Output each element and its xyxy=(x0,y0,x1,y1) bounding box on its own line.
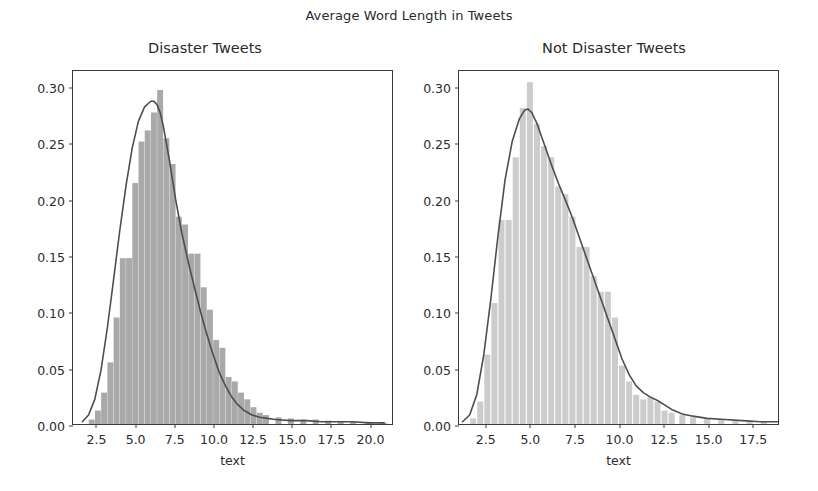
x-tick-mark xyxy=(485,424,486,428)
x-tick-mark xyxy=(96,424,97,428)
x-tick-label: 5.0 xyxy=(126,432,146,447)
histogram-bar xyxy=(188,254,194,424)
x-tick-mark xyxy=(174,424,175,428)
x-tick-mark xyxy=(530,424,531,428)
histogram-bar xyxy=(89,420,95,424)
plot-area-right xyxy=(459,71,778,424)
x-tick-label: 17.5 xyxy=(317,432,345,447)
histogram-bar xyxy=(120,258,126,424)
histogram-bar xyxy=(576,247,582,424)
histogram-bar xyxy=(151,112,157,424)
x-tick-label: 7.5 xyxy=(165,432,185,447)
histogram-bar xyxy=(263,415,269,424)
histogram-bar xyxy=(513,157,519,424)
x-tick-label: 10.0 xyxy=(606,432,634,447)
histogram-bar xyxy=(101,393,107,424)
histogram-bar xyxy=(226,377,232,424)
histogram-bar xyxy=(619,366,625,424)
histogram-bar xyxy=(626,381,632,424)
histogram-bar xyxy=(195,254,201,424)
y-tick-mark xyxy=(69,87,73,88)
x-tick-mark xyxy=(370,424,371,428)
histogram-bar xyxy=(679,415,685,424)
y-tick-label: 0.30 xyxy=(423,80,451,95)
x-tick-mark xyxy=(574,424,575,428)
histogram-bar xyxy=(548,157,554,424)
histogram-bar xyxy=(170,164,176,424)
panel-title-left: Disaster Tweets xyxy=(0,40,410,56)
y-tick-label: 0.15 xyxy=(37,249,65,264)
histogram-bar xyxy=(562,194,568,424)
panel-title-right: Not Disaster Tweets xyxy=(410,40,818,56)
x-tick-mark xyxy=(708,424,709,428)
y-tick-label: 0.10 xyxy=(37,306,65,321)
histogram-bar xyxy=(484,355,490,424)
histogram-bar xyxy=(591,276,597,424)
x-tick-label: 15.0 xyxy=(278,432,306,447)
y-tick-label: 0.25 xyxy=(37,137,65,152)
x-tick-mark xyxy=(331,424,332,428)
xlabel-left: text xyxy=(72,453,393,468)
y-tick-label: 0.05 xyxy=(423,362,451,377)
axes-not-disaster-tweets: 0.000.050.100.150.200.250.302.55.07.510.… xyxy=(458,70,779,425)
y-tick-mark xyxy=(69,144,73,145)
y-tick-mark xyxy=(455,256,459,257)
histogram-bar xyxy=(176,217,182,424)
histogram-bar xyxy=(598,292,604,424)
histogram-bar xyxy=(477,402,483,424)
y-tick-mark xyxy=(455,87,459,88)
histogram-bar xyxy=(520,108,526,424)
histogram-bar xyxy=(633,395,639,424)
histogram-bar xyxy=(506,220,512,424)
histogram-bar xyxy=(527,82,533,424)
histogram-bar xyxy=(257,413,263,424)
x-tick-label: 20.0 xyxy=(357,432,385,447)
y-tick-label: 0.05 xyxy=(37,362,65,377)
y-tick-mark xyxy=(69,200,73,201)
x-tick-label: 17.5 xyxy=(739,432,767,447)
histogram-bar xyxy=(470,418,476,424)
x-tick-mark xyxy=(213,424,214,428)
histogram-bar xyxy=(107,362,113,424)
x-tick-mark xyxy=(135,424,136,428)
histogram-bar xyxy=(555,186,561,424)
y-tick-label: 0.00 xyxy=(423,419,451,434)
y-tick-mark xyxy=(455,369,459,370)
axes-disaster-tweets: 0.000.050.100.150.200.250.302.55.07.510.… xyxy=(72,70,393,425)
x-tick-mark xyxy=(619,424,620,428)
x-tick-mark xyxy=(753,424,754,428)
histogram-bar xyxy=(640,399,646,424)
panel-not-disaster-tweets: Not Disaster Tweets 0.000.050.100.150.20… xyxy=(410,0,818,491)
y-tick-mark xyxy=(69,369,73,370)
x-tick-label: 5.0 xyxy=(520,432,540,447)
panel-disaster-tweets: Disaster Tweets 0.000.050.100.150.200.25… xyxy=(0,0,410,491)
histogram-bar xyxy=(654,402,660,424)
histogram-bar xyxy=(163,138,169,424)
plot-area-left xyxy=(73,71,392,424)
histogram-bar xyxy=(732,421,738,424)
x-tick-label: 2.5 xyxy=(87,432,107,447)
histogram-bar xyxy=(219,348,225,424)
x-tick-label: 2.5 xyxy=(476,432,496,447)
histogram-bar xyxy=(157,90,163,424)
histogram-bar xyxy=(139,142,145,424)
histogram-bar xyxy=(114,318,120,424)
histogram-bar xyxy=(647,397,653,424)
histogram-bar xyxy=(584,247,590,424)
y-tick-label: 0.10 xyxy=(423,306,451,321)
x-tick-mark xyxy=(292,424,293,428)
histogram-bar xyxy=(95,411,101,424)
histogram-bar xyxy=(534,124,540,424)
histogram-bar xyxy=(132,183,138,424)
histogram-bar xyxy=(201,287,207,424)
histogram-bar xyxy=(213,340,219,424)
histogram-bar xyxy=(662,411,668,424)
histogram-bar xyxy=(499,220,505,424)
y-tick-label: 0.00 xyxy=(37,419,65,434)
y-tick-label: 0.25 xyxy=(423,137,451,152)
histogram-bar xyxy=(491,303,497,424)
y-tick-mark xyxy=(455,313,459,314)
y-tick-mark xyxy=(69,313,73,314)
histogram-bar xyxy=(569,217,575,424)
y-tick-label: 0.20 xyxy=(423,193,451,208)
